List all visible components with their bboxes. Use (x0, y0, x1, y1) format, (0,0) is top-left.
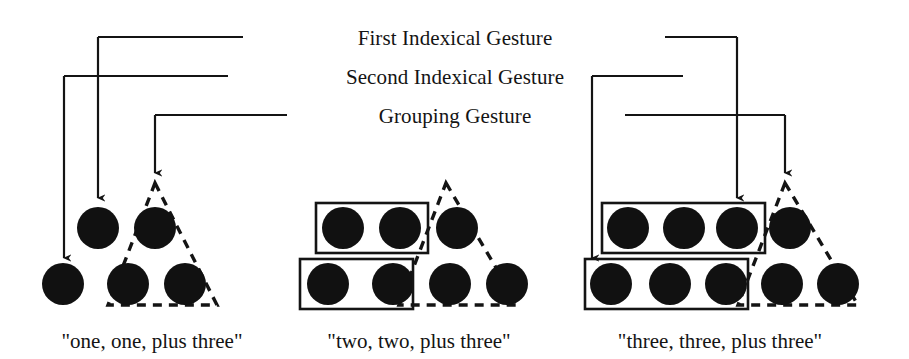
counter-dot (164, 263, 206, 305)
counter-dot (590, 263, 632, 305)
counter-dot (436, 207, 478, 249)
counter-dot (769, 207, 811, 249)
counter-dot (379, 207, 421, 249)
counter-dot (649, 263, 691, 305)
panel-three (585, 183, 859, 309)
panel-caption-panel-one: "one, one, plus three" (61, 329, 242, 353)
counter-dot (663, 207, 705, 249)
panel-caption-panel-two: "two, two, plus three" (327, 329, 510, 353)
counter-dot (607, 207, 649, 249)
gesture-counting-diagram: First Indexical GestureSecond Indexical … (0, 0, 909, 359)
counter-dot (716, 207, 758, 249)
counter-dot (817, 263, 859, 305)
counter-dot (42, 263, 84, 305)
panel-caption-panel-three: "three, three, plus three" (618, 329, 822, 353)
panels-group (42, 183, 859, 309)
counter-dot (705, 263, 747, 305)
connector-label-grouping-gesture: Grouping Gesture (379, 104, 532, 128)
counter-dot (322, 207, 364, 249)
panel-two (300, 183, 528, 309)
connector-label-first-indexical-gesture: First Indexical Gesture (358, 26, 553, 50)
diagram-canvas: First Indexical GestureSecond Indexical … (0, 0, 909, 359)
counter-dot (761, 263, 803, 305)
counter-dot (307, 263, 349, 305)
panel-one (42, 183, 217, 305)
counter-dot (486, 263, 528, 305)
counter-dot (107, 263, 149, 305)
connector-label-second-indexical-gesture: Second Indexical Gesture (346, 65, 564, 89)
counter-dot (372, 263, 414, 305)
counter-dot (429, 263, 471, 305)
counter-dot (77, 207, 119, 249)
counter-dot (134, 207, 176, 249)
